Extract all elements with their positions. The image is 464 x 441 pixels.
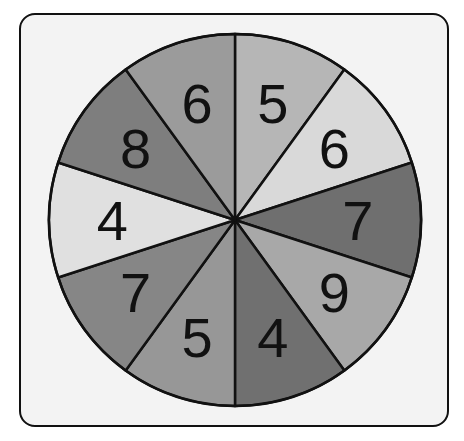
section-number: 5 <box>257 72 288 135</box>
section-number: 4 <box>97 189 128 252</box>
section-number: 9 <box>319 261 350 324</box>
section-number: 6 <box>181 72 212 135</box>
section-number: 7 <box>342 189 373 252</box>
section-number: 6 <box>319 117 350 180</box>
section-number: 5 <box>181 306 212 369</box>
spinner-wheel: 5679457486 <box>0 0 464 441</box>
section-number: 7 <box>120 261 151 324</box>
section-number: 4 <box>257 306 288 369</box>
section-number: 8 <box>120 117 151 180</box>
